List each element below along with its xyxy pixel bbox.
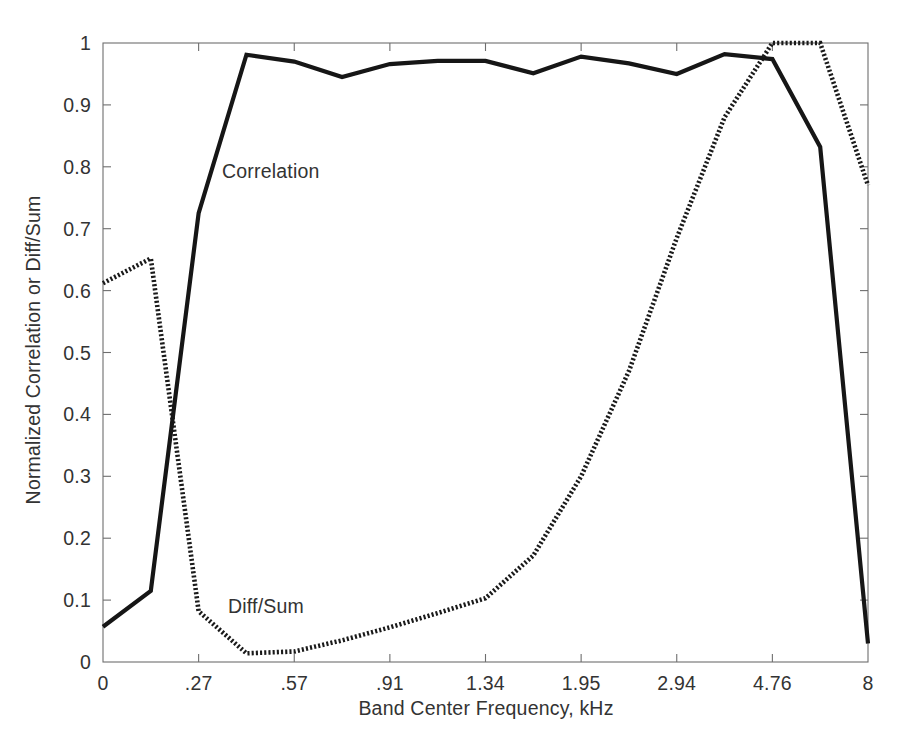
y-tick-label: 0.1	[0, 589, 91, 612]
x-tick-label: 1.34	[466, 672, 505, 695]
series-line-correlation	[103, 54, 868, 643]
y-axis-ticks	[103, 105, 868, 600]
y-tick-label: 0.2	[0, 527, 91, 550]
annotation-correlation: Correlation	[222, 160, 320, 183]
y-tick-label: 0.3	[0, 465, 91, 488]
x-tick-label: .91	[376, 672, 404, 695]
y-tick-label: 1	[0, 32, 91, 55]
x-tick-label: 0	[97, 672, 108, 695]
axis-frame	[103, 43, 868, 662]
x-tick-label: 4.76	[753, 672, 792, 695]
y-tick-label: 0.9	[0, 93, 91, 116]
series-line-diff-sum	[103, 43, 868, 653]
x-tick-label: .57	[280, 672, 308, 695]
x-tick-label: 2.94	[657, 672, 696, 695]
x-axis-ticks	[199, 43, 773, 662]
y-tick-label: 0.5	[0, 341, 91, 364]
chart-figure: 0.27.57.911.341.952.944.768 00.10.20.30.…	[0, 0, 907, 751]
plot-canvas	[0, 0, 907, 751]
y-tick-label: 0.8	[0, 155, 91, 178]
y-axis-title: Normalized Correlation or Diff/Sum	[22, 196, 45, 505]
x-tick-label: 8	[862, 672, 873, 695]
y-tick-label: 0.7	[0, 217, 91, 240]
y-tick-label: 0	[0, 651, 91, 674]
x-axis-title: Band Center Frequency, kHz	[358, 697, 613, 720]
y-tick-label: 0.6	[0, 279, 91, 302]
x-tick-label: 1.95	[562, 672, 601, 695]
x-tick-label: .27	[185, 672, 213, 695]
y-tick-label: 0.4	[0, 403, 91, 426]
annotation-diff-sum: Diff/Sum	[228, 595, 304, 618]
